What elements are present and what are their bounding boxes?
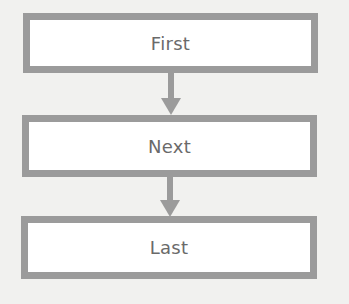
flow-node-first: First (23, 13, 318, 73)
node-label: Next (148, 136, 191, 157)
arrow-down-icon (159, 176, 181, 218)
flow-node-last: Last (21, 216, 317, 279)
arrow-down-icon (160, 72, 182, 116)
flow-node-next: Next (22, 115, 317, 177)
node-label: First (151, 33, 190, 54)
node-label: Last (150, 237, 189, 258)
